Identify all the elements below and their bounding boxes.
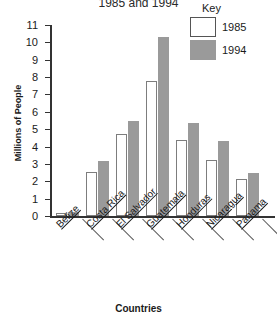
x-separator	[262, 219, 277, 241]
y-tick-label: 3	[32, 159, 38, 170]
y-tick-label: 4	[32, 142, 38, 153]
bar-group	[56, 25, 80, 216]
y-tick: 1	[45, 199, 50, 200]
y-tick-label: 11	[27, 20, 38, 31]
y-axis-label: Millions of People	[13, 58, 23, 188]
y-tick-label: 2	[32, 176, 38, 187]
legend-swatch-1985	[190, 17, 216, 37]
bar-1994-guatemala	[158, 37, 169, 216]
y-tick: 8	[45, 77, 50, 78]
bar-1985-honduras	[176, 140, 187, 216]
bar-chart: 1985 and 1994 Millions of People 0123456…	[0, 0, 277, 316]
y-tick-label: 6	[32, 107, 38, 118]
y-tick: 7	[45, 94, 50, 95]
y-tick: 0	[45, 216, 50, 217]
y-tick: 2	[45, 181, 50, 182]
y-tick: 6	[45, 112, 50, 113]
y-tick-label: 9	[32, 55, 38, 66]
legend-title: Key	[202, 2, 274, 14]
legend-item-1994: 1994	[190, 40, 274, 60]
y-tick: 11	[45, 25, 50, 26]
y-tick-label: 0	[32, 211, 38, 222]
y-tick-label: 8	[32, 72, 38, 83]
legend-swatch-1994	[190, 40, 216, 60]
y-tick: 9	[45, 60, 50, 61]
bar-group	[86, 25, 110, 216]
y-tick-label: 1	[32, 194, 38, 205]
bar-1985-nicaragua	[206, 160, 217, 216]
y-tick: 5	[45, 129, 50, 130]
y-tick: 4	[45, 147, 50, 148]
y-tick-label: 10	[26, 37, 38, 48]
y-tick: 3	[45, 164, 50, 165]
y-tick-label: 7	[32, 89, 38, 100]
y-tick-label: 5	[32, 124, 38, 135]
legend-label-1985: 1985	[222, 21, 246, 33]
legend: Key 1985 1994	[190, 2, 274, 60]
legend-label-1994: 1994	[222, 44, 246, 56]
legend-item-1985: 1985	[190, 17, 274, 37]
y-tick: 10	[45, 42, 50, 43]
x-axis-label: Countries	[0, 303, 277, 314]
y-axis-line	[50, 25, 52, 218]
